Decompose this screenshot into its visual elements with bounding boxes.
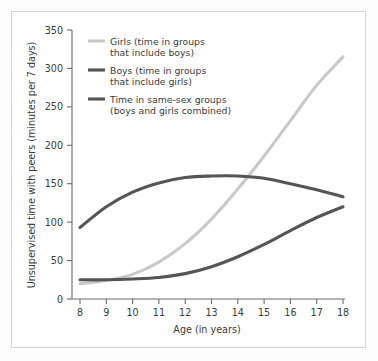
x-tick-label: 14: [232, 307, 244, 318]
x-tick-label: 13: [205, 307, 217, 318]
y-tick-label: 100: [45, 217, 63, 228]
legend-label-boys-line2: that include girls): [110, 76, 192, 87]
y-tick-label: 150: [45, 178, 63, 189]
x-axis-title: Age (in years): [173, 324, 240, 335]
x-tick-label: 18: [337, 307, 349, 318]
legend-label-boys-line1: Boys (time in groups: [110, 65, 206, 76]
chart-legend: Girls (time in groups that include boys)…: [88, 36, 231, 116]
y-tick-label: 250: [45, 101, 63, 112]
x-tick-label: 11: [153, 307, 165, 318]
y-tick-label: 200: [45, 140, 63, 151]
x-tick-label: 15: [258, 307, 270, 318]
legend-label-same-sex-line2: (boys and girls combined): [110, 105, 231, 116]
x-axis-ticks: 8 9 10 11 12 13 14 15 16 17 18: [77, 299, 349, 318]
legend-label-girls-line1: Girls (time in groups: [110, 36, 205, 47]
y-tick-label: 350: [45, 25, 63, 36]
y-axis-ticks: 0 50 100 150 200 250 300 350: [45, 25, 72, 305]
chart-figure: 0 50 100 150 200 250 300 350 8 9 10: [0, 0, 378, 361]
y-tick-label: 50: [51, 255, 63, 266]
y-tick-label: 300: [45, 63, 63, 74]
x-tick-label: 17: [311, 307, 323, 318]
legend-label-same-sex-line1: Time in same-sex groups: [109, 94, 227, 105]
x-tick-label: 8: [77, 307, 83, 318]
x-tick-label: 16: [284, 307, 296, 318]
line-chart-canvas: 0 50 100 150 200 250 300 350 8 9 10: [0, 0, 378, 361]
legend-label-girls-line2: that include boys): [110, 47, 194, 58]
series-line-girls: [80, 57, 343, 284]
x-tick-label: 10: [126, 307, 138, 318]
y-axis-title: Unsupervised time with peers (minutes pe…: [26, 42, 37, 289]
y-tick-label: 0: [57, 294, 63, 305]
x-tick-label: 12: [179, 307, 191, 318]
x-tick-label: 9: [103, 307, 109, 318]
